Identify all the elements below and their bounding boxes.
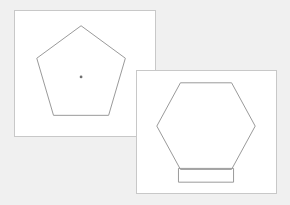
pentagon-panel[interactable]: [14, 10, 156, 137]
pentagon-panel-canvas: [15, 11, 155, 136]
rectangle-shape[interactable]: [178, 168, 233, 182]
screenshot-canvas: [0, 0, 290, 205]
hexagon-panel[interactable]: [136, 70, 277, 194]
pentagon-center-dot: [80, 76, 83, 79]
hexagon-panel-canvas: [137, 71, 276, 193]
pentagon-shape[interactable]: [37, 26, 126, 116]
hexagon-shape[interactable]: [157, 83, 255, 170]
